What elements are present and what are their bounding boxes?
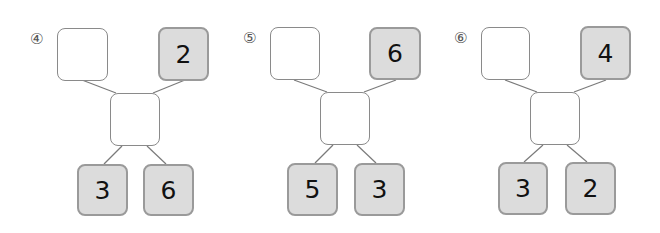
given-box-bottom-right: 2 xyxy=(565,162,616,215)
answer-box-top-left[interactable] xyxy=(57,28,108,81)
given-box-top-right: 4 xyxy=(580,26,631,80)
given-box-top-right: 2 xyxy=(158,27,209,81)
answer-box-top-left[interactable] xyxy=(270,27,320,80)
given-box-bottom-left: 3 xyxy=(77,164,128,216)
answer-box-center[interactable] xyxy=(320,92,370,145)
given-box-bottom-right: 6 xyxy=(143,164,194,216)
answer-box-center[interactable] xyxy=(110,93,160,146)
problem-number-5: ⑤ xyxy=(243,31,256,46)
problem-number-6: ⑥ xyxy=(454,31,467,46)
worksheet: ④ 2 3 6 ⑤ 6 5 3 ⑥ 4 3 2 xyxy=(0,0,660,233)
given-box-bottom-right: 3 xyxy=(354,163,405,216)
problem-number-4: ④ xyxy=(30,32,43,47)
answer-box-center[interactable] xyxy=(530,92,580,145)
answer-box-top-left[interactable] xyxy=(481,27,530,80)
given-box-top-right: 6 xyxy=(369,27,421,80)
given-box-bottom-left: 5 xyxy=(287,163,338,216)
given-box-bottom-left: 3 xyxy=(498,162,548,215)
